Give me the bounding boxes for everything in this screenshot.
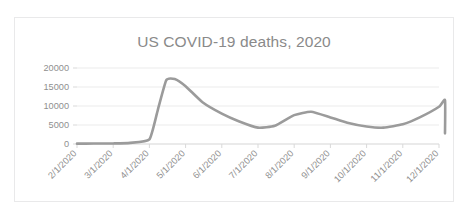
chart-plot-area: 20000 15000 10000 5000 0 2/1/2020 3/1/20… (15, 18, 455, 203)
x-tick-label-0: 2/1/2020 (46, 148, 78, 180)
x-tick-label-3: 5/1/2020 (155, 148, 187, 180)
y-tick-label-10000: 10000 (43, 101, 69, 111)
y-tickmarks (73, 68, 77, 144)
x-tick-label-7: 9/1/2020 (299, 148, 331, 180)
x-tick-label-6: 8/1/2020 (263, 148, 295, 180)
x-tick-label-5: 7/1/2020 (227, 148, 259, 180)
x-axis-labels: 2/1/2020 3/1/2020 4/1/2020 5/1/2020 6/1/… (46, 148, 440, 184)
x-tick-label-9: 11/1/2020 (369, 148, 404, 183)
x-tick-label-10: 12/1/2020 (404, 148, 440, 184)
x-tick-label-2: 4/1/2020 (118, 148, 150, 180)
gridlines (77, 68, 439, 125)
y-axis-labels: 20000 15000 10000 5000 0 (43, 63, 69, 149)
y-tick-label-0: 0 (64, 139, 69, 149)
data-series-line (77, 78, 445, 143)
x-tick-label-4: 6/1/2020 (191, 148, 223, 180)
y-tick-label-20000: 20000 (43, 63, 69, 73)
y-tick-label-5000: 5000 (49, 120, 69, 130)
x-tickmarks (77, 144, 439, 148)
y-tick-label-15000: 15000 (43, 82, 69, 92)
x-tick-label-8: 10/1/2020 (332, 148, 368, 184)
x-tick-label-1: 3/1/2020 (82, 148, 114, 180)
chart-container: US COVID-19 deaths, 2020 20000 15000 100… (14, 17, 454, 202)
